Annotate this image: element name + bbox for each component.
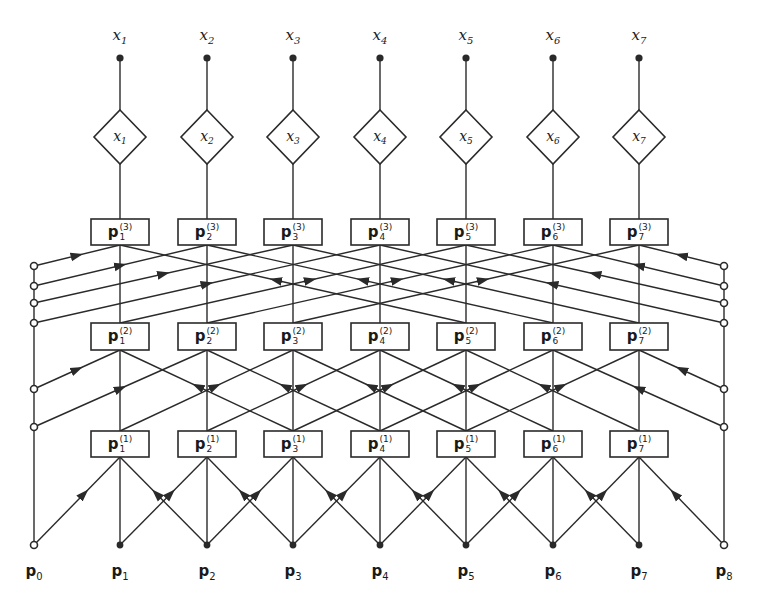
- diamond-label-x1: x1: [113, 128, 127, 147]
- box-label-p4-layer-2: p(2)4: [368, 329, 393, 346]
- box-label-p3-layer-1: p(1)3: [281, 437, 306, 454]
- output-label-x4: x4: [373, 26, 388, 46]
- box-label-p7-layer-1: p(1)7: [627, 437, 652, 454]
- input-node-p6: [550, 542, 555, 547]
- arrow-head-icon: [255, 494, 257, 496]
- arrow-head-icon: [198, 386, 201, 388]
- arrow-head-icon: [371, 386, 374, 388]
- diamond-label-x6: x6: [546, 128, 560, 147]
- arrow-head-icon: [276, 280, 283, 282]
- input-label-p0: p0: [25, 562, 42, 582]
- box-label-p7-layer-2: p(2)7: [627, 329, 652, 346]
- network-diagram: [0, 0, 760, 602]
- arrow-head-icon: [472, 386, 475, 388]
- arrow-head-icon: [449, 280, 456, 282]
- box-label-p3-layer-3: p(3)3: [281, 225, 306, 242]
- arrow-head-icon: [601, 494, 603, 496]
- output-label-x6: x6: [546, 26, 561, 46]
- arrow-head-icon: [476, 280, 483, 282]
- box-label-p6-layer-3: p(3)6: [541, 225, 566, 242]
- right-boundary-node: [721, 283, 728, 290]
- right-boundary-node: [721, 300, 728, 307]
- box-label-p1-layer-2: p(2)1: [108, 329, 133, 346]
- arrow-head-icon: [589, 494, 591, 496]
- arrow-head-icon: [363, 280, 370, 282]
- right-boundary-node: [721, 263, 728, 270]
- arrow-head-icon: [303, 280, 310, 282]
- arrow-head-icon: [169, 494, 171, 496]
- box-label-p4-layer-3: p(3)4: [368, 225, 393, 242]
- input-node-p4: [377, 542, 382, 547]
- right-boundary-node: [721, 386, 728, 393]
- arrow-head-icon: [458, 386, 461, 388]
- input-label-p1: p1: [111, 562, 128, 582]
- arrow-head-icon: [299, 386, 302, 388]
- arrow-head-icon: [243, 494, 245, 496]
- input-node-p1: [117, 542, 122, 547]
- left-boundary-node: [31, 386, 38, 393]
- input-node-p2: [204, 542, 209, 547]
- diamond-label-x2: x2: [200, 128, 214, 147]
- input-node-open-p8: [721, 542, 728, 549]
- input-label-p6: p6: [544, 562, 561, 582]
- output-label-x1: x1: [113, 26, 128, 46]
- arrow-head-icon: [675, 494, 677, 496]
- input-label-p5: p5: [457, 562, 474, 582]
- box-label-p4-layer-1: p(1)4: [368, 437, 393, 454]
- arrow-head-icon: [503, 494, 505, 496]
- output-label-x3: x3: [286, 26, 301, 46]
- output-label-x2: x2: [200, 26, 215, 46]
- input-label-p7: p7: [630, 562, 647, 582]
- arrow-head-icon: [639, 266, 642, 267]
- arrow-head-icon: [212, 386, 215, 388]
- box-label-p3-layer-2: p(2)3: [281, 329, 306, 346]
- box-label-p7-layer-3: p(3)7: [627, 225, 652, 242]
- box-label-p2-layer-1: p(1)2: [195, 437, 220, 454]
- left-boundary-node: [31, 283, 38, 290]
- box-label-p2-layer-2: p(2)2: [195, 329, 220, 346]
- arrow-head-icon: [544, 386, 547, 388]
- right-boundary-node: [721, 320, 728, 327]
- box-label-p1-layer-3: p(3)1: [108, 225, 133, 242]
- left-boundary-node: [31, 263, 38, 270]
- arrow-head-icon: [682, 370, 684, 371]
- arrow-head-icon: [157, 494, 159, 496]
- arrow-head-icon: [82, 494, 84, 496]
- left-boundary-node: [31, 424, 38, 431]
- output-label-x5: x5: [459, 26, 474, 46]
- input-edge-left: [34, 457, 120, 545]
- input-node-p7: [636, 542, 641, 547]
- arrow-head-icon: [515, 494, 517, 496]
- diamond-label-x3: x3: [286, 128, 300, 147]
- arrow-head-icon: [158, 274, 163, 275]
- box-label-p5-layer-3: p(3)5: [454, 225, 479, 242]
- arrow-head-icon: [285, 386, 288, 388]
- diamond-label-x7: x7: [632, 128, 646, 147]
- box-label-p5-layer-1: p(1)5: [454, 437, 479, 454]
- output-terminal-dot: [117, 55, 123, 61]
- arrow-head-icon: [200, 284, 207, 286]
- output-terminal-dot: [290, 55, 296, 61]
- diamond-label-x5: x5: [459, 128, 473, 147]
- box-label-p6-layer-1: p(1)6: [541, 437, 566, 454]
- output-terminal-dot: [377, 55, 383, 61]
- input-node-open-p0: [31, 542, 38, 549]
- input-node-p3: [290, 542, 295, 547]
- box-label-p6-layer-2: p(2)6: [541, 329, 566, 346]
- arrow-head-icon: [428, 494, 430, 496]
- arrow-head-icon: [342, 494, 344, 496]
- input-label-p2: p2: [198, 562, 215, 582]
- arrow-head-icon: [595, 274, 600, 275]
- input-label-p3: p3: [284, 562, 301, 582]
- arrow-head-icon: [416, 494, 418, 496]
- arrow-head-icon: [330, 494, 332, 496]
- box-label-p5-layer-2: p(2)5: [454, 329, 479, 346]
- arrow-head-icon: [75, 370, 77, 371]
- output-terminal-dot: [550, 55, 556, 61]
- box-label-p2-layer-3: p(3)2: [195, 225, 220, 242]
- output-terminal-dot: [463, 55, 469, 61]
- input-edge-right: [639, 457, 724, 545]
- diamond-label-x4: x4: [373, 128, 387, 147]
- arrow-head-icon: [558, 386, 561, 388]
- output-terminal-dot: [204, 55, 210, 61]
